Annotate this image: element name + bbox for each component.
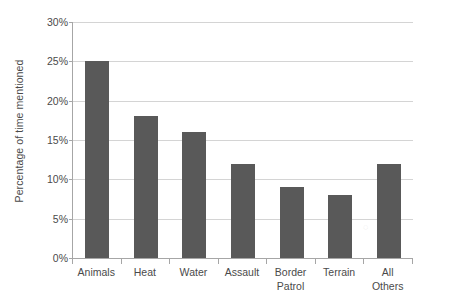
y-axis-tick-label: 30% bbox=[47, 16, 68, 28]
x-axis-tick-label: All Others bbox=[372, 266, 404, 293]
x-axis-tick-mark bbox=[266, 259, 267, 264]
bar[interactable] bbox=[377, 164, 401, 258]
bar-slot bbox=[170, 22, 219, 258]
x-axis-tick-label: Water bbox=[180, 266, 208, 280]
bar-slot bbox=[364, 22, 413, 258]
y-axis-tick-mark bbox=[69, 61, 73, 62]
x-axis-tick-labels: AnimalsHeatWaterAssaultBorder PatrolTerr… bbox=[72, 266, 412, 300]
x-axis-tick-mark bbox=[218, 259, 219, 264]
y-axis-tick-label: 20% bbox=[47, 95, 68, 107]
x-axis-tick-mark bbox=[72, 259, 73, 264]
x-axis-tick-label: Border Patrol bbox=[275, 266, 307, 293]
x-axis-tick-label: Terrain bbox=[323, 266, 355, 280]
bar[interactable] bbox=[85, 61, 109, 258]
bar-slot bbox=[316, 22, 365, 258]
y-axis-tick-label: 15% bbox=[47, 134, 68, 146]
bar-slot bbox=[219, 22, 268, 258]
bar[interactable] bbox=[182, 132, 206, 258]
y-axis-title-text: Percentage of time mentioned bbox=[13, 60, 25, 203]
bar-slot bbox=[267, 22, 316, 258]
bar[interactable] bbox=[231, 164, 255, 258]
x-axis-tick-label: Heat bbox=[134, 266, 156, 280]
y-axis-tick-labels: 0%5%10%15%20%25%30% bbox=[34, 22, 68, 258]
y-axis-title: Percentage of time mentioned bbox=[6, 0, 32, 262]
x-axis-tick-mark bbox=[363, 259, 364, 264]
y-axis-tick-mark bbox=[69, 179, 73, 180]
bars-group bbox=[73, 22, 413, 258]
bar[interactable] bbox=[328, 195, 352, 258]
y-axis-tick-mark bbox=[69, 140, 73, 141]
bar-chart: Percentage of time mentioned 0%5%10%15%2… bbox=[0, 0, 454, 302]
y-axis-tick-label: 10% bbox=[47, 173, 68, 185]
x-axis-tick-marks bbox=[72, 259, 413, 265]
y-axis-tick-mark bbox=[69, 22, 73, 23]
y-axis-tick-mark bbox=[69, 219, 73, 220]
x-axis-tick-label: Assault bbox=[225, 266, 259, 280]
y-axis-tick-mark bbox=[69, 101, 73, 102]
bar-slot bbox=[73, 22, 122, 258]
bar-slot bbox=[122, 22, 171, 258]
bar[interactable] bbox=[134, 116, 158, 258]
x-axis-tick-label: Animals bbox=[78, 266, 115, 280]
bar[interactable] bbox=[280, 187, 304, 258]
x-axis-tick-mark bbox=[169, 259, 170, 264]
y-axis-tick-label: 25% bbox=[47, 55, 68, 67]
x-axis-tick-mark bbox=[121, 259, 122, 264]
y-axis-tick-label: 5% bbox=[53, 213, 68, 225]
x-axis-tick-mark bbox=[315, 259, 316, 264]
plot-area bbox=[72, 22, 413, 259]
y-axis-tick-label: 0% bbox=[53, 252, 68, 264]
x-axis-tick-mark bbox=[412, 259, 413, 264]
